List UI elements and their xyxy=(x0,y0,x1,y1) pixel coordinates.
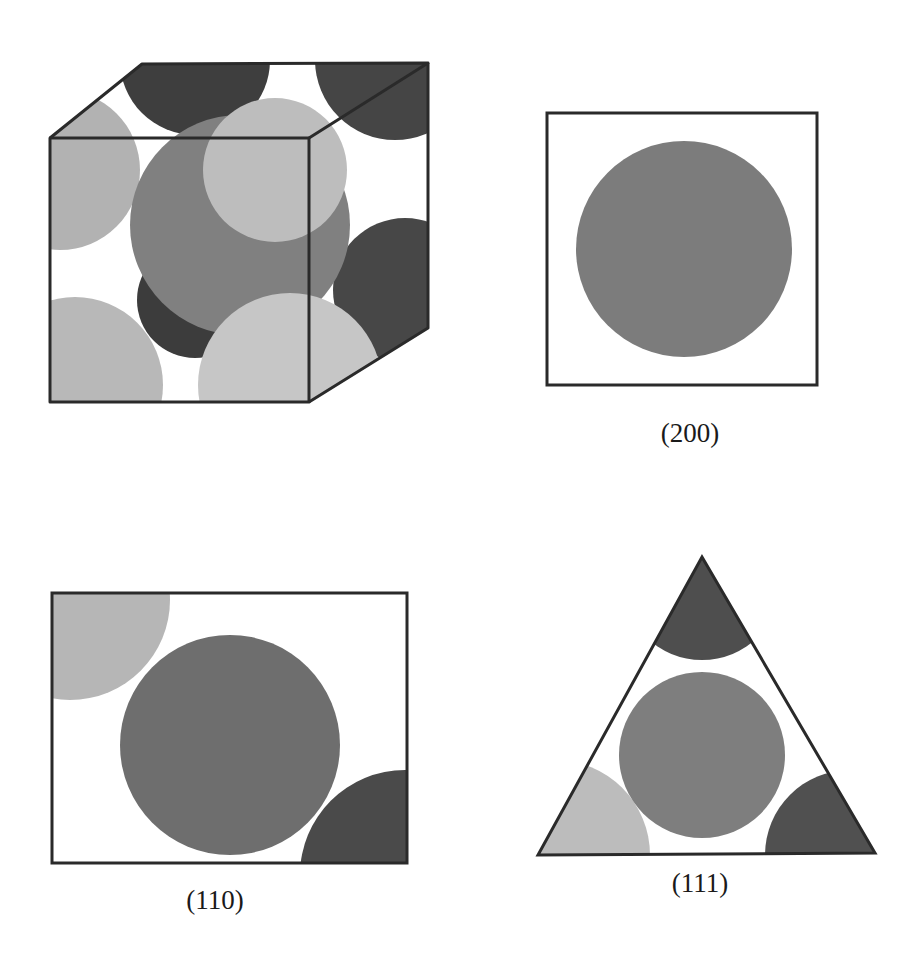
caption-200: (200) xyxy=(630,418,750,449)
atom-110-center xyxy=(120,635,340,855)
plane-200-panel xyxy=(540,105,830,395)
atom-front-bottom-left xyxy=(0,297,163,473)
atom-111-top xyxy=(622,500,782,660)
atom-200-center xyxy=(576,141,792,357)
plane-200-illustration xyxy=(540,105,830,395)
caption-110: (110) xyxy=(155,885,275,916)
atom-front-bottom-right xyxy=(198,293,382,477)
atom-front-left-top xyxy=(0,90,140,250)
unit-cell-panel xyxy=(0,0,460,430)
atom-110-corner-bottom-right xyxy=(300,770,510,978)
atom-110-corner-top-left xyxy=(0,500,170,700)
plane-111-illustration xyxy=(530,545,890,865)
caption-111: (111) xyxy=(640,868,760,899)
atom-111-center xyxy=(619,672,785,838)
plane-111-panel xyxy=(530,545,890,865)
plane-110-illustration xyxy=(45,585,415,875)
plane-110-panel xyxy=(45,585,415,875)
fcc-unit-cell-illustration xyxy=(0,0,460,430)
atom-top-face xyxy=(203,98,347,242)
